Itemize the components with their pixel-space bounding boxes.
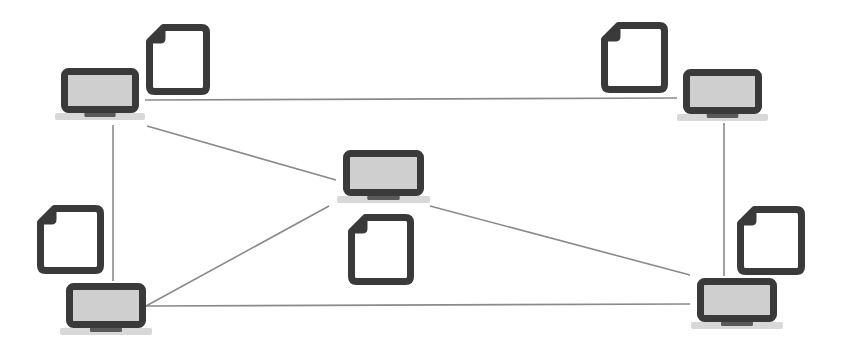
network-link-tl-c	[147, 126, 336, 180]
file-icon	[41, 209, 101, 271]
network-link-c-br	[430, 206, 690, 275]
file-icon	[352, 218, 411, 282]
network-diagram-canvas	[0, 0, 845, 352]
network-diagram	[0, 0, 845, 352]
network-link-c-bl	[146, 206, 329, 306]
laptop-icon	[677, 73, 768, 122]
laptop-icon	[55, 72, 145, 121]
file-icon	[150, 28, 207, 92]
laptop-icon	[691, 282, 783, 330]
laptop-icon	[60, 287, 152, 336]
file-icon	[605, 26, 665, 90]
file-icon	[741, 210, 802, 272]
network-link-tl-tr	[145, 98, 677, 100]
laptop-icon	[337, 154, 430, 204]
network-link-bl-br	[146, 304, 690, 306]
